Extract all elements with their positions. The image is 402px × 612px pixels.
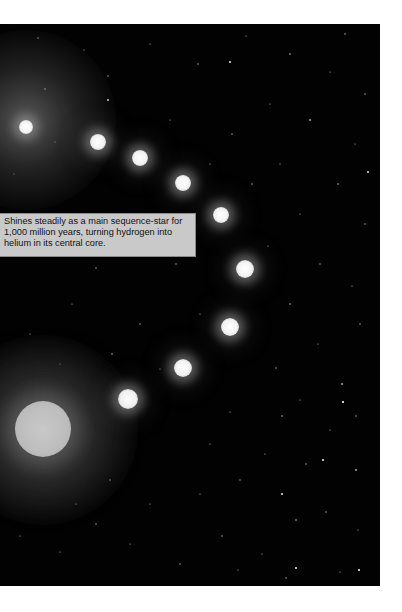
- caption-box: Shines steadily as a main sequence-star …: [0, 213, 196, 257]
- star-lifecycle-illustration: Shines steadily as a main sequence-star …: [0, 24, 380, 586]
- caption-text: Shines steadily as a main sequence-star …: [4, 216, 182, 248]
- star-stage-1-icon: [19, 120, 33, 134]
- star-stage-5-icon: [213, 207, 229, 223]
- star-stage-3-icon: [132, 150, 148, 166]
- red-giant-icon: [15, 401, 71, 457]
- star-stage-7-icon: [221, 318, 239, 336]
- main-sequence-star-icon: [236, 260, 254, 278]
- star-stage-9-icon: [118, 389, 138, 409]
- star-stage-2-icon: [90, 134, 106, 150]
- star-stage-8-icon: [174, 359, 192, 377]
- star-stage-4-icon: [175, 175, 191, 191]
